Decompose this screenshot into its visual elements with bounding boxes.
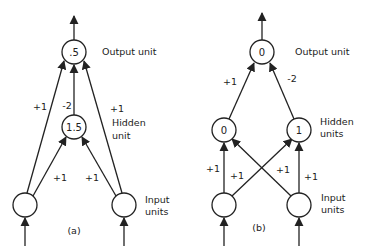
edge-input-right-to-hidden (82, 137, 116, 196)
output-unit-label: Output unit (102, 46, 157, 57)
weight-label: +1 (223, 76, 237, 87)
edge-hidden-right-to-output (270, 63, 294, 119)
weight-label: +1 (304, 171, 318, 182)
input-unit-right-node (287, 193, 311, 217)
input-units-label: Input (145, 194, 170, 205)
hidden-unit-label: Hidden (112, 117, 146, 128)
hidden-unit-right-value: 1 (296, 125, 302, 136)
output-unit-value: 0 (259, 47, 265, 58)
weight-label: +1 (110, 103, 124, 114)
hidden-unit-label: unit (112, 130, 131, 141)
weight-label: +1 (53, 172, 67, 183)
input-units-label: units (145, 206, 168, 217)
input-unit-right-node (112, 193, 136, 217)
hidden-unit-left-value: 0 (221, 125, 227, 136)
weight-label: -2 (287, 73, 296, 84)
diagram-a: .5 1.5 +1 -2 +1 +1 +1 Output unit Hidden… (13, 16, 170, 246)
output-unit-value: .5 (69, 47, 79, 58)
diagram-b: 0 0 1 +1 -2 +1 +1 +1 +1 Output unit Hidd… (206, 13, 354, 246)
hidden-unit-value: 1.5 (66, 122, 82, 133)
output-unit-label: Output unit (295, 46, 350, 57)
edge-hidden-left-to-output (229, 63, 254, 119)
weight-label: +1 (33, 101, 47, 112)
hidden-units-label: Hidden (320, 116, 354, 127)
input-units-label: units (321, 204, 344, 215)
diagram-caption: (a) (67, 225, 80, 236)
weight-label: +1 (230, 170, 244, 181)
weight-label: +1 (276, 164, 290, 175)
hidden-units-label: units (320, 128, 343, 139)
weight-label: +1 (85, 172, 99, 183)
input-unit-left-node (212, 193, 236, 217)
weight-label: +1 (206, 163, 220, 174)
input-units-label: Input (321, 192, 346, 203)
xor-network-figure: .5 1.5 +1 -2 +1 +1 +1 Output unit Hidden… (0, 0, 374, 252)
input-unit-left-node (13, 193, 37, 217)
weight-label: -2 (62, 100, 71, 111)
diagram-caption: (b) (252, 222, 265, 233)
edge-input-left-to-hidden (33, 137, 66, 196)
